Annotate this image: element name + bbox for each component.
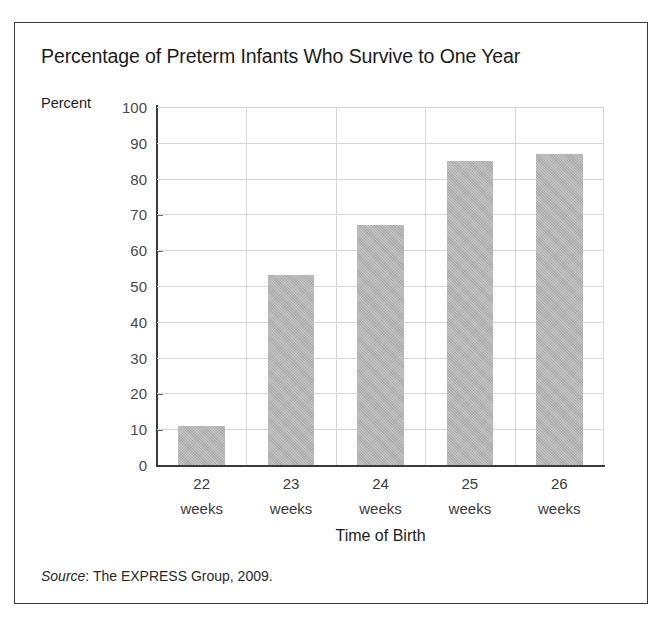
x-category-label-23: 23weeks bbox=[246, 471, 335, 521]
bar-22-weeks bbox=[178, 426, 224, 465]
x-category-unit: weeks bbox=[515, 496, 604, 521]
x-axis-title: Time of Birth bbox=[157, 527, 604, 545]
plot-right-edge bbox=[603, 107, 604, 465]
source-text: : The EXPRESS Group, 2009. bbox=[85, 568, 272, 584]
y-tick-label: 60 bbox=[130, 242, 147, 259]
plot-area bbox=[157, 107, 604, 465]
gridline-horizontal bbox=[157, 107, 604, 108]
y-tick-label: 0 bbox=[139, 457, 147, 474]
x-axis-line bbox=[156, 465, 605, 467]
chart-figure-frame: Percentage of Preterm Infants Who Surviv… bbox=[14, 22, 648, 604]
x-category-unit: weeks bbox=[157, 496, 246, 521]
bar-25-weeks bbox=[447, 161, 493, 465]
y-tick-label: 50 bbox=[130, 278, 147, 295]
source-label: Source bbox=[41, 568, 85, 584]
y-tick-label: 80 bbox=[130, 170, 147, 187]
y-axis-tick-labels: 0102030405060708090100 bbox=[15, 107, 157, 465]
x-category-unit: weeks bbox=[336, 496, 425, 521]
x-category-number: 25 bbox=[425, 471, 514, 496]
gridline-horizontal bbox=[157, 143, 604, 144]
source-note: Source: The EXPRESS Group, 2009. bbox=[41, 568, 273, 584]
chart-title: Percentage of Preterm Infants Who Surviv… bbox=[41, 45, 520, 68]
x-axis-category-labels: 22weeks23weeks24weeks25weeks26weeks bbox=[157, 471, 604, 525]
gridline-vertical bbox=[425, 107, 426, 465]
x-category-label-22: 22weeks bbox=[157, 471, 246, 521]
y-tick-label: 10 bbox=[130, 421, 147, 438]
bar-24-weeks bbox=[357, 225, 403, 465]
y-tick-label: 100 bbox=[122, 99, 147, 116]
y-tick-label: 30 bbox=[130, 349, 147, 366]
y-tick-label: 20 bbox=[130, 385, 147, 402]
x-category-number: 23 bbox=[246, 471, 335, 496]
bar-23-weeks bbox=[268, 275, 314, 465]
x-category-label-25: 25weeks bbox=[425, 471, 514, 521]
x-category-number: 26 bbox=[515, 471, 604, 496]
x-category-unit: weeks bbox=[425, 496, 514, 521]
gridline-vertical bbox=[246, 107, 247, 465]
x-category-number: 24 bbox=[336, 471, 425, 496]
gridline-vertical bbox=[336, 107, 337, 465]
bar-26-weeks bbox=[536, 154, 582, 465]
y-tick-label: 90 bbox=[130, 134, 147, 151]
x-category-unit: weeks bbox=[246, 496, 335, 521]
gridline-vertical bbox=[515, 107, 516, 465]
x-category-number: 22 bbox=[157, 471, 246, 496]
x-category-label-24: 24weeks bbox=[336, 471, 425, 521]
y-tick-label: 40 bbox=[130, 313, 147, 330]
x-category-label-26: 26weeks bbox=[515, 471, 604, 521]
y-tick-label: 70 bbox=[130, 206, 147, 223]
